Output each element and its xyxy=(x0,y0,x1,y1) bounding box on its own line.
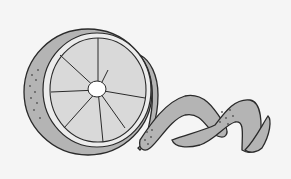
center xyxy=(88,81,106,97)
orange-illustration xyxy=(0,0,291,179)
